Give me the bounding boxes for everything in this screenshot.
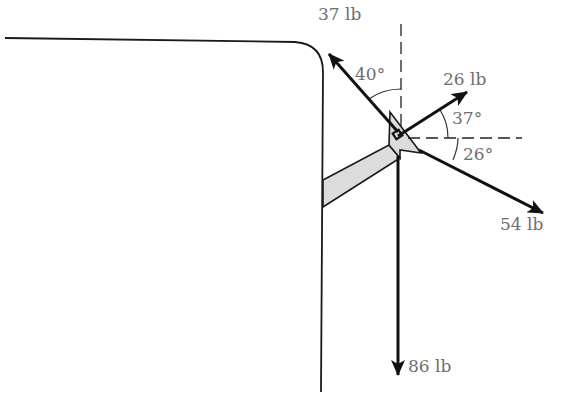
bracket-bar <box>323 145 400 207</box>
force-label-26lb: 26 lb <box>443 69 486 89</box>
angle-label-40: 40° <box>355 64 385 84</box>
force-label-86lb: 86 lb <box>408 356 451 376</box>
wall-outline <box>5 38 323 392</box>
force-label-37lb: 37 lb <box>318 4 361 24</box>
angle-label-26: 26° <box>463 144 493 164</box>
force-label-54lb: 54 lb <box>500 214 543 234</box>
angle-arc-26 <box>453 138 458 160</box>
angle-label-37: 37° <box>452 108 482 128</box>
angle-arc-37 <box>440 110 448 138</box>
force-diagram: 37 lb 40° 26 lb 37° 26° 54 lb 86 lb <box>0 0 572 406</box>
angle-arc-40 <box>369 89 401 99</box>
